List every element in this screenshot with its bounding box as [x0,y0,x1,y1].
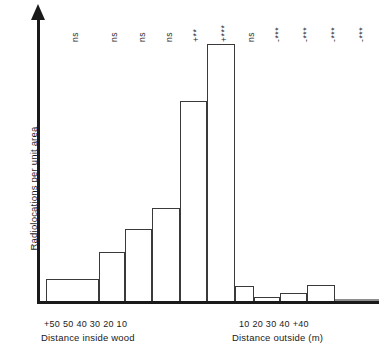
bar-40-inside [125,229,152,302]
bar-10-inside [207,44,235,302]
x-axis-caption-right: Distance outside (m) [232,332,323,343]
significance-marker-3: ns [163,2,175,42]
bar-20-inside [180,101,207,302]
bar-40-outside [307,285,335,302]
bar-30-inside [152,208,180,302]
plot-area [0,0,384,347]
significance-marker-2: ns [136,2,148,42]
x-tick-labels-right: 10 20 30 40 +40 [239,319,309,329]
x-axis-line [37,301,379,304]
bar-plus50-inside [46,279,99,302]
significance-marker-5: +*** [218,2,230,42]
bar-50-inside [99,252,125,302]
bar-10-outside [235,286,254,302]
x-tick-labels-left: +50 50 40 30 20 10 [44,319,127,329]
significance-marker-8: -*** [300,2,312,42]
histogram-figure: Radiolocations per unit area ns ns ns ns… [0,0,384,347]
significance-marker-10: -*** [356,2,368,42]
significance-marker-0: ns [69,2,81,42]
significance-marker-4: +** [190,2,202,42]
significance-marker-6: ns [245,2,257,42]
x-axis-caption-left: Distance inside wood [41,332,135,343]
significance-marker-9: -*** [328,2,340,42]
significance-marker-7: -*** [272,2,284,42]
significance-marker-1: ns [108,2,120,42]
